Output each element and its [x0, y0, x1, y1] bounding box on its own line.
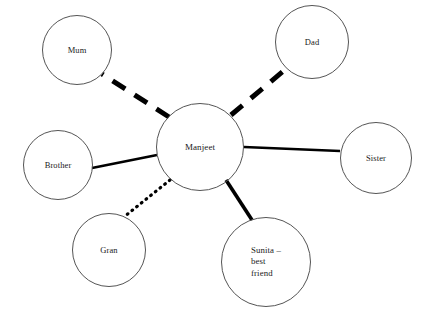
edge-manjeet-mum — [102, 74, 169, 117]
node-label-gran: Gran — [100, 245, 117, 255]
sociogram-diagram: Mum Dad Sister Brother Gran Sunita – bes… — [0, 0, 431, 318]
node-label-mum: Mum — [68, 45, 87, 55]
edge-manjeet-brother — [92, 155, 157, 168]
node-label-manjeet: Manjeet — [185, 142, 215, 153]
node-sister[interactable]: Sister — [340, 122, 412, 194]
node-label-sunita: Sunita – best friend — [251, 245, 281, 279]
node-dad[interactable]: Dad — [275, 5, 349, 79]
node-label-dad: Dad — [305, 37, 319, 47]
edge-manjeet-sunita — [226, 180, 252, 220]
node-label-brother: Brother — [45, 160, 72, 170]
node-manjeet-center[interactable]: Manjeet — [156, 103, 244, 191]
node-mum[interactable]: Mum — [42, 15, 112, 85]
node-gran[interactable]: Gran — [72, 213, 146, 287]
edge-manjeet-dad — [231, 68, 287, 115]
node-brother[interactable]: Brother — [23, 130, 93, 200]
edge-manjeet-sister — [244, 147, 340, 151]
node-sunita-best-friend[interactable]: Sunita – best friend — [221, 217, 311, 307]
node-label-sister: Sister — [366, 153, 386, 163]
edge-manjeet-gran — [124, 180, 170, 217]
